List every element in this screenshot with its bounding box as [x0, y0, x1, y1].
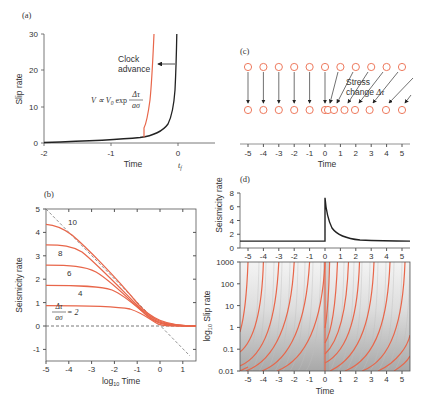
panel-d-top-yticks: 0 2 4 6 8 — [230, 189, 240, 253]
svg-text:0: 0 — [323, 375, 328, 384]
svg-text:0: 0 — [323, 149, 328, 158]
svg-text:-3: -3 — [275, 375, 283, 384]
svg-text:10: 10 — [29, 103, 38, 112]
panel-d-top-xticks: -5 -4 -3 -2 -1 0 1 2 3 4 5 — [244, 248, 404, 261]
panel-a-perturbed-curve — [144, 34, 154, 137]
svg-text:-4: -4 — [260, 149, 268, 158]
svg-text:3: 3 — [369, 252, 374, 261]
svg-text:0: 0 — [230, 244, 235, 253]
svg-text:= 2: = 2 — [67, 308, 78, 317]
svg-text:5: 5 — [400, 252, 405, 261]
svg-text:-1: -1 — [134, 365, 142, 374]
svg-text:1: 1 — [338, 375, 343, 384]
panel-c-bottom-circles — [244, 106, 405, 113]
svg-text:4: 4 — [230, 217, 235, 226]
svg-text:0: 0 — [323, 252, 328, 261]
svg-text:2: 2 — [230, 230, 235, 239]
stress-change-label-2: change Δτ — [346, 87, 385, 97]
svg-text:3: 3 — [369, 375, 374, 384]
svg-text:4: 4 — [384, 149, 389, 158]
svg-text:1: 1 — [338, 252, 343, 261]
svg-text:-5: -5 — [244, 252, 252, 261]
svg-text:0: 0 — [158, 365, 163, 374]
panel-c-arrows — [248, 72, 413, 103]
svg-text:-3: -3 — [88, 365, 96, 374]
svg-text:2: 2 — [354, 375, 359, 384]
svg-text:1: 1 — [230, 323, 235, 332]
svg-text:aσ: aσ — [132, 101, 141, 110]
svg-text:-5: -5 — [244, 375, 252, 384]
svg-text:20: 20 — [29, 66, 38, 75]
svg-text:6: 6 — [67, 269, 72, 278]
panel-a-xticks: -2 -1 0 tf — [40, 143, 183, 171]
panel-b-ylabel: Seismicity rate — [14, 257, 24, 313]
svg-text:tf: tf — [178, 161, 183, 171]
svg-text:5: 5 — [36, 205, 41, 214]
svg-text:4: 4 — [78, 289, 83, 298]
panel-d-bottom-ylabel: log10 Slip rate — [202, 290, 213, 341]
svg-text:V ∝ V0 exp: V ∝ V0 exp — [91, 96, 127, 106]
panel-a-label: (a) — [22, 10, 32, 20]
svg-text:Δτ: Δτ — [131, 90, 141, 99]
panel-a: (a) 0 10 20 30 -2 -1 0 tf Time Slip rate — [14, 10, 215, 171]
svg-text:1: 1 — [36, 299, 41, 308]
svg-text:0: 0 — [176, 149, 181, 158]
panel-d-bottom-xticks: -5 -4 -3 -2 -1 0 1 2 3 4 5 — [244, 371, 404, 384]
panel-d-bottom-yticks: 1000 100 10 1 0.1 0.01 — [216, 258, 240, 376]
svg-text:1: 1 — [338, 149, 343, 158]
svg-text:2: 2 — [354, 252, 359, 261]
svg-text:-1: -1 — [33, 345, 41, 354]
panel-a-xlabel: Time — [124, 159, 143, 169]
svg-text:5: 5 — [400, 149, 405, 158]
svg-text:aσ: aσ — [55, 313, 63, 322]
panel-b-legend-formula: Δτ aσ = 2 — [52, 302, 78, 322]
panel-d-top-ylabel: Seismicity rate — [214, 177, 224, 233]
svg-text:0: 0 — [36, 322, 41, 331]
panel-d-bottom-xlabel: Time — [316, 386, 335, 396]
svg-text:-4: -4 — [65, 365, 73, 374]
svg-text:-1: -1 — [107, 149, 115, 158]
panel-d-label: (d) — [240, 174, 250, 184]
svg-text:Δτ: Δτ — [54, 302, 62, 311]
svg-text:8: 8 — [58, 249, 63, 258]
svg-text:2: 2 — [36, 275, 41, 284]
panel-c-label: (c) — [240, 46, 250, 56]
panel-c-top-circles — [244, 63, 405, 70]
svg-text:-2: -2 — [40, 149, 48, 158]
svg-text:0.01: 0.01 — [218, 367, 234, 376]
svg-text:30: 30 — [29, 30, 38, 39]
svg-text:-4: -4 — [260, 375, 268, 384]
stress-change-label: Stress — [346, 77, 370, 87]
svg-text:-5: -5 — [42, 365, 50, 374]
svg-text:4: 4 — [384, 375, 389, 384]
figure: (a) 0 10 20 30 -2 -1 0 tf Time Slip rate — [0, 0, 429, 402]
panel-a-yticks: 0 10 20 30 — [29, 30, 44, 148]
svg-text:-1: -1 — [306, 375, 314, 384]
svg-text:2: 2 — [354, 149, 359, 158]
svg-text:3: 3 — [36, 252, 41, 261]
panel-c-xticks: -5 -4 -3 -2 -1 0 1 2 3 4 5 — [244, 144, 404, 158]
svg-text:8: 8 — [230, 189, 235, 198]
svg-text:10: 10 — [68, 218, 77, 227]
panel-b: (b) 5 4 3 2 1 0 -1 -5 -4 -3 -2 -1 0 1 — [14, 189, 196, 387]
panel-c: (c) — [240, 46, 413, 169]
svg-text:1: 1 — [181, 365, 186, 374]
panel-d-bottom: 1000 100 10 1 0.1 0.01 log10 Slip rate -… — [202, 258, 410, 396]
panel-a-original-curve — [44, 34, 177, 143]
svg-text:100: 100 — [221, 280, 235, 289]
panel-a-ylabel: Slip rate — [14, 73, 24, 104]
panel-d-top: (d) 0 2 4 6 8 Seismicity rate -5 -4 -3 -… — [214, 174, 410, 261]
clock-advance-label: Clock — [118, 54, 140, 64]
svg-text:-2: -2 — [111, 365, 119, 374]
panel-c-xlabel: Time — [318, 159, 337, 169]
svg-text:3: 3 — [369, 149, 374, 158]
slip-rate-formula: V ∝ V0 exp Δτ aσ — [91, 90, 143, 110]
clock-advance-label-2: advance — [118, 64, 150, 74]
panel-b-xlabel: log10 Time — [102, 376, 141, 387]
svg-text:-5: -5 — [244, 149, 252, 158]
svg-text:4: 4 — [36, 228, 41, 237]
svg-text:6: 6 — [230, 203, 235, 212]
panel-b-label: (b) — [44, 189, 54, 199]
svg-text:1000: 1000 — [216, 258, 234, 267]
asymptote-line — [46, 209, 190, 356]
